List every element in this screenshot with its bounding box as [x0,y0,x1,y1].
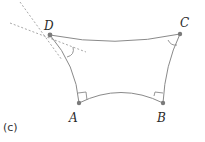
vertex-A [77,101,81,105]
right-angle-B [154,92,163,96]
vertex-B [161,101,165,105]
label-A: A [68,111,78,125]
tangent-line-1 [20,2,62,60]
quadrilateral-diagram: D C A B (c) [0,0,205,142]
figure-caption: (c) [3,121,18,134]
vertex-D [48,33,53,38]
angle-arc-D [67,47,73,57]
label-B: B [156,111,166,125]
label-C: C [180,16,189,30]
edge-DA [50,35,79,103]
right-angle-A [78,92,87,100]
label-D: D [43,19,54,33]
edge-DC [50,34,180,41]
edge-AB [79,93,163,104]
vertex-C [178,32,182,36]
